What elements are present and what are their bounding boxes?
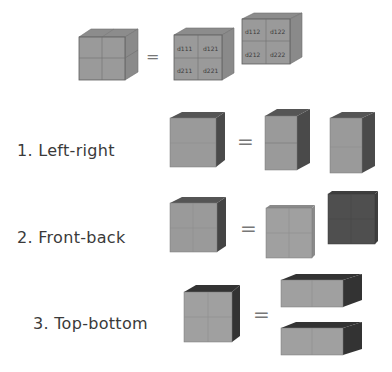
equals-sign: = [240, 218, 257, 238]
back-slab-icon [328, 191, 378, 244]
equals-sign: = [253, 304, 270, 324]
cell-label: d111 [177, 45, 192, 52]
equals-sign: = [146, 49, 159, 65]
row-label-front-back: 2. Front-back [17, 228, 126, 247]
right-slab-icon [330, 112, 375, 173]
cell-label: d221 [203, 67, 218, 74]
row-label-top-bottom: 3. Top-bottom [33, 314, 148, 333]
cell-label: d122 [270, 28, 285, 35]
left-right-cube-icon [170, 112, 225, 167]
left-slab-icon [265, 109, 310, 170]
top-slab-icon [281, 274, 362, 307]
front-labeled-cube-icon: d111 d121 d211 d221 [174, 28, 234, 80]
front-back-cube-icon [170, 197, 226, 252]
cell-label: d222 [270, 51, 285, 58]
equals-sign: = [237, 131, 254, 151]
cell-label: d211 [177, 67, 192, 74]
back-labeled-cube-icon: d112 d122 d212 d222 [242, 13, 302, 64]
cell-label: d212 [245, 51, 260, 58]
cell-label: d121 [203, 45, 218, 52]
front-slab-icon [266, 205, 315, 258]
top-bottom-cube-icon [184, 285, 240, 342]
full-cube-icon [79, 29, 138, 80]
cell-label: d112 [245, 28, 260, 35]
row-label-left-right: 1. Left-right [17, 141, 115, 160]
bottom-slab-icon [281, 322, 362, 355]
